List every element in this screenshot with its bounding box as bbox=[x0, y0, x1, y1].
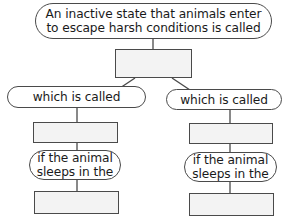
left-condition-line-2: sleeps in the bbox=[37, 165, 113, 179]
left-condition-oval: if the animal sleeps in the bbox=[29, 150, 121, 180]
answer-box-left-2[interactable] bbox=[34, 191, 119, 214]
root-text-line-1: An inactive state that animals enter bbox=[46, 7, 262, 21]
left-link-label: which is called bbox=[33, 90, 121, 104]
right-condition-line-2: sleeps in the bbox=[192, 167, 268, 181]
right-link-oval: which is called bbox=[166, 89, 282, 110]
left-link-oval: which is called bbox=[7, 86, 146, 108]
right-link-label: which is called bbox=[180, 93, 268, 107]
answer-box-right-1[interactable] bbox=[189, 123, 273, 144]
right-condition-line-1: if the animal bbox=[192, 153, 268, 167]
answer-box-center[interactable] bbox=[115, 49, 192, 78]
left-condition-line-1: if the animal bbox=[37, 151, 113, 165]
root-text-line-2: to escape harsh conditions is called bbox=[46, 21, 262, 35]
answer-box-left-1[interactable] bbox=[33, 122, 118, 143]
answer-box-right-2[interactable] bbox=[189, 193, 274, 216]
root-concept-oval: An inactive state that animals enter to … bbox=[35, 3, 272, 39]
right-condition-oval: if the animal sleeps in the bbox=[184, 152, 277, 182]
